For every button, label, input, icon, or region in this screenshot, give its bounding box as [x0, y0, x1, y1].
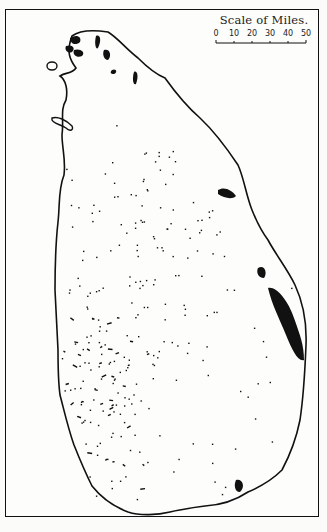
coastline: [55, 31, 306, 515]
scale-bar: 0 10 20 30 40 50: [205, 29, 317, 49]
stipple-dots: [62, 125, 293, 500]
islet: [47, 62, 57, 70]
island-map: [0, 0, 327, 532]
scale-line: [205, 29, 317, 49]
north-masses: [65, 36, 137, 85]
east-coast-masses: [218, 188, 304, 492]
scale-of-miles: Scale of Miles. 0 10 20 30 40 50: [205, 13, 317, 49]
scale-title: Scale of Miles.: [211, 13, 317, 27]
